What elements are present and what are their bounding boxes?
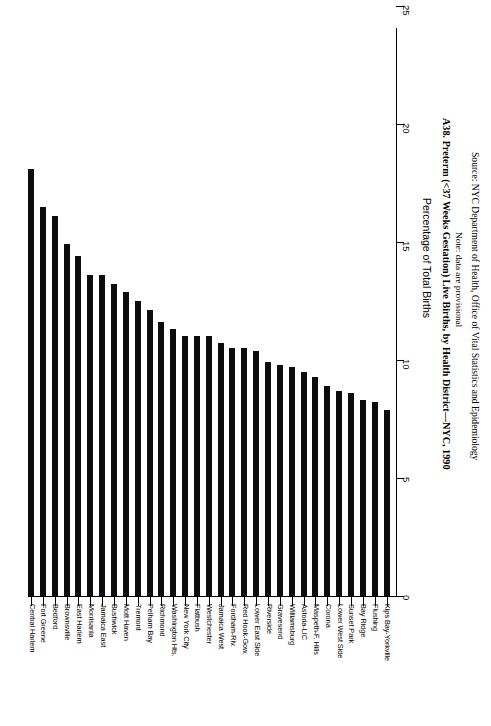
category-label: Bay Ridge [359, 604, 367, 637]
category-label: Richmond [158, 604, 166, 636]
bar [194, 336, 200, 596]
category-label: Red Hook-Gow. [241, 604, 249, 655]
category-label: Riverside [265, 604, 273, 634]
bar [253, 351, 259, 596]
category-label: Maspeth-F. Hills [312, 604, 320, 655]
figure-a38: Central HarlemFort GreeneBedfordBrownsvi… [0, 0, 491, 726]
category-label: Pelham Bay [146, 604, 154, 643]
value-axis-line [396, 28, 397, 596]
bar [170, 329, 176, 596]
bar [206, 336, 212, 596]
bar [372, 402, 378, 596]
category-label: Lower West Side [336, 604, 344, 658]
category-label: East Harlem [75, 604, 83, 644]
category-label: Tremont [134, 604, 142, 631]
category-label: Fordham-Riv. [229, 604, 237, 647]
value-tick-label: 10 [401, 359, 412, 370]
category-label: New York City [182, 604, 190, 649]
category-label: Jamaica West [217, 604, 225, 649]
bar [360, 400, 366, 596]
bar [277, 365, 283, 596]
category-label: Morrisania [87, 604, 95, 638]
category-label: Washington Hts. [170, 604, 178, 656]
value-axis: 0510152025 [396, 0, 399, 726]
category-label: Bushwick [110, 604, 118, 634]
bar [135, 301, 141, 596]
bar [75, 256, 81, 596]
bar [241, 348, 247, 596]
bar [52, 216, 58, 596]
bar [158, 322, 164, 596]
category-label: Lower East Side [253, 604, 261, 656]
category-label: Fort Greene [39, 604, 47, 643]
bar [384, 410, 390, 596]
category-label: Central Harlem [28, 604, 36, 652]
value-tick-label: 25 [401, 5, 412, 16]
category-label: Gravesend [276, 604, 284, 639]
bar [289, 367, 295, 596]
plot-area: Central HarlemFort GreeneBedfordBrownsvi… [28, 0, 396, 726]
category-label: Astoria-LIC [300, 604, 308, 640]
bar [123, 292, 129, 596]
bar [99, 275, 105, 596]
category-label: Flatbush [193, 604, 201, 632]
bar [111, 284, 117, 596]
category-label: Corona [324, 604, 332, 628]
category-label: Sunset Park [347, 604, 355, 643]
category-label: Flushing [371, 604, 379, 631]
value-tick-label: 20 [401, 123, 412, 134]
bar [348, 393, 354, 596]
bar [218, 343, 224, 596]
figure-title: A38. Preterm (<37 Weeks Gestation) Live … [441, 118, 452, 469]
category-label: Bedford [51, 604, 59, 629]
category-label: Williamsburg [288, 604, 296, 645]
bar [324, 386, 330, 596]
bar [229, 348, 235, 596]
bar [265, 362, 271, 596]
bar [64, 244, 70, 596]
bar [28, 169, 34, 596]
category-label: Kips Bay-Yorkville [383, 604, 391, 661]
value-tick-label: 5 [401, 477, 412, 482]
value-tick-label: 0 [401, 595, 412, 600]
category-label: Brownsville [63, 604, 71, 640]
bar [312, 377, 318, 596]
figure-source: Source: NYC Department of Health, Office… [470, 152, 481, 460]
bar [147, 310, 153, 596]
figure-note: Note: data are provisional [454, 232, 464, 327]
category-label: Mott Haven [122, 604, 130, 641]
category-axis-line [28, 596, 396, 597]
bar [40, 207, 46, 596]
axis-title: Percentage of Total Births [421, 198, 433, 318]
bar [301, 372, 307, 596]
bar [336, 391, 342, 596]
bar [87, 275, 93, 596]
category-label: Westchester [205, 604, 213, 644]
value-tick-label: 15 [401, 241, 412, 252]
category-label: Jamaica East [99, 604, 107, 647]
bar [182, 336, 188, 596]
